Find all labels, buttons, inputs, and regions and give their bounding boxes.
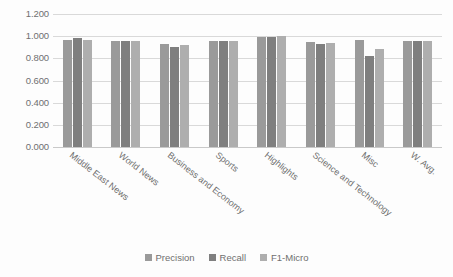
x-axis-labels: Middle East NewsWorld NewsBusiness and E… — [53, 148, 442, 240]
y-axis-tick-label: 1.000 — [3, 31, 49, 41]
bar-recall[interactable] — [267, 37, 276, 147]
bar-group — [199, 14, 248, 147]
bar-precision[interactable] — [257, 37, 266, 147]
x-axis-label-slot: Business and Economy — [150, 148, 199, 240]
bar-f1-micro[interactable] — [131, 41, 140, 147]
bar-f1-micro[interactable] — [375, 49, 384, 147]
bar-chart: 0.0000.2000.4000.6000.8001.0001.200 Midd… — [0, 0, 453, 277]
bar-group — [150, 14, 199, 147]
x-axis-label-slot: Science and Technology — [296, 148, 345, 240]
bar-f1-micro[interactable] — [229, 41, 238, 147]
x-axis-tick-label: Sports — [214, 150, 241, 174]
bar-f1-micro[interactable] — [180, 45, 189, 147]
bar-precision[interactable] — [209, 41, 218, 147]
legend-item[interactable]: Precision — [145, 252, 195, 263]
chart-legend: PrecisionRecallF1-Micro — [0, 252, 453, 263]
legend-swatch-icon — [209, 254, 216, 261]
bar-recall[interactable] — [413, 41, 422, 147]
x-axis-tick-label: W. Avg. — [409, 150, 439, 177]
legend-label: Recall — [220, 252, 246, 263]
x-axis-label-slot: World News — [102, 148, 151, 240]
bar-group — [248, 14, 297, 147]
bar-recall[interactable] — [365, 56, 374, 147]
y-axis-tick-label: 1.200 — [3, 9, 49, 19]
x-axis-tick-label: Misc — [360, 150, 381, 169]
x-axis-label-slot: Middle East News — [53, 148, 102, 240]
bar-f1-micro[interactable] — [83, 40, 92, 148]
bar-group — [102, 14, 151, 147]
bars-layer — [53, 14, 442, 147]
bar-group — [53, 14, 102, 147]
bar-precision[interactable] — [355, 40, 364, 148]
bar-recall[interactable] — [170, 47, 179, 147]
bar-precision[interactable] — [306, 42, 315, 147]
bar-recall[interactable] — [73, 38, 82, 147]
x-axis-label-slot: Sports — [199, 148, 248, 240]
y-axis-tick-label: 0.400 — [3, 98, 49, 108]
bar-recall[interactable] — [219, 41, 228, 147]
legend-label: F1-Micro — [271, 252, 308, 263]
x-axis-label-slot: Misc — [345, 148, 394, 240]
bar-group — [345, 14, 394, 147]
bar-recall[interactable] — [316, 44, 325, 147]
x-axis-label-slot: W. Avg. — [393, 148, 442, 240]
x-axis-tick-label: Highlights — [263, 150, 300, 182]
bar-f1-micro[interactable] — [277, 36, 286, 147]
y-axis-tick-label: 0.000 — [3, 142, 49, 152]
bar-f1-micro[interactable] — [326, 43, 335, 147]
legend-item[interactable]: Recall — [209, 252, 246, 263]
bar-precision[interactable] — [63, 40, 72, 148]
legend-item[interactable]: F1-Micro — [260, 252, 308, 263]
bar-f1-micro[interactable] — [423, 41, 432, 147]
bar-recall[interactable] — [121, 41, 130, 147]
legend-swatch-icon — [260, 254, 267, 261]
x-axis-label-slot: Highlights — [248, 148, 297, 240]
bar-group — [393, 14, 442, 147]
y-axis: 0.0000.2000.4000.6000.8001.0001.200 — [0, 14, 49, 147]
y-axis-tick-label: 0.800 — [3, 53, 49, 63]
bar-precision[interactable] — [403, 41, 412, 147]
bar-group — [296, 14, 345, 147]
legend-swatch-icon — [145, 254, 152, 261]
y-axis-tick-label: 0.200 — [3, 120, 49, 130]
bar-precision[interactable] — [160, 44, 169, 147]
plot-area — [53, 14, 442, 147]
y-axis-tick-label: 0.600 — [3, 76, 49, 86]
legend-label: Precision — [156, 252, 195, 263]
bar-precision[interactable] — [111, 41, 120, 147]
